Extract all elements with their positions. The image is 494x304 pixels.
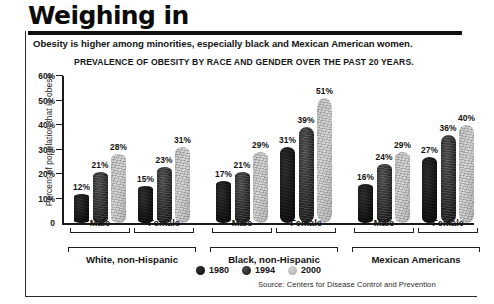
circle-light-icon (288, 266, 297, 275)
bar-1994-white-non-hispanic-female (157, 167, 172, 223)
bar-value-label: 36% (435, 124, 461, 132)
bar-2000-mexican-americans-male (395, 152, 410, 223)
chart-legend: 198019942000 (196, 265, 321, 275)
subtitle-text: Obesity is higher among minorities, espe… (33, 38, 413, 49)
race-bracket-0 (68, 247, 196, 252)
y-axis-tick-labels: 010%20%30%40%50%60% (28, 70, 55, 230)
gender-bracket-male-0 (70, 228, 130, 233)
y-tick-mark-40 (56, 124, 63, 125)
circle-dark-icon (196, 266, 205, 275)
bar-value-label: 31% (170, 136, 196, 144)
legend-label: 2000 (301, 265, 321, 275)
circle-mid-icon (242, 266, 251, 275)
bar-1980-black-non-hispanic-male (216, 181, 231, 223)
bar-value-label: 27% (417, 146, 443, 154)
gender-bracket-female-3 (276, 228, 336, 233)
bar-1994-mexican-americans-male (377, 164, 392, 223)
y-tick-label-60: 60% (38, 72, 55, 80)
bar-value-label: 40% (454, 114, 480, 122)
plot-area: 12%21%28%15%23%31%17%21%29%31%39%51%16%2… (62, 76, 474, 223)
bar-value-label: 28% (106, 143, 132, 151)
y-tick-label-20: 20% (38, 170, 55, 178)
bar-1994-black-non-hispanic-female (299, 127, 314, 223)
gender-bracket-female-5 (418, 228, 478, 233)
legend-item-1994[interactable]: 1994 (242, 265, 275, 275)
bar-value-label: 24% (371, 153, 397, 161)
y-tick-mark-10 (56, 198, 63, 199)
bar-2000-white-non-hispanic-male (111, 154, 126, 223)
bar-1994-mexican-americans-female (441, 135, 456, 223)
gender-label-female-3: Female (266, 218, 346, 228)
bar-2000-mexican-americans-female (459, 125, 474, 223)
race-bracket-1 (210, 247, 338, 252)
bar-2000-white-non-hispanic-female (175, 147, 190, 223)
gender-label-female-1: Female (124, 218, 204, 228)
gender-label-female-5: Female (408, 218, 488, 228)
legend-item-2000[interactable]: 2000 (288, 265, 321, 275)
bar-value-label: 21% (87, 161, 113, 169)
bar-value-label: 39% (293, 116, 319, 124)
legend-label: 1994 (255, 265, 275, 275)
y-tick-label-10: 10% (38, 195, 55, 203)
bar-2000-black-non-hispanic-male (253, 152, 268, 223)
y-tick-label-40: 40% (38, 121, 55, 129)
chart-title: PREVALENCE OF OBESITY BY RACE AND GENDER… (74, 57, 414, 67)
bar-1980-black-non-hispanic-female (280, 147, 295, 223)
y-tick-label-50: 50% (38, 97, 55, 105)
bar-value-label: 51% (312, 87, 338, 95)
bar-2000-black-non-hispanic-female (317, 98, 332, 223)
bar-value-label: 31% (275, 136, 301, 144)
bar-1994-white-non-hispanic-male (93, 172, 108, 223)
race-label-2: Mexican Americans (332, 254, 494, 265)
gender-bracket-female-1 (134, 228, 194, 233)
bar-value-label: 29% (248, 141, 274, 149)
bar-value-label: 17% (211, 170, 237, 178)
bar-1994-black-non-hispanic-male (235, 172, 250, 223)
bar-value-label: 16% (353, 173, 379, 181)
page-title: Weighing in (28, 2, 468, 29)
gender-bracket-male-2 (212, 228, 272, 233)
y-tick-mark-50 (56, 100, 63, 101)
y-tick-label-0: 0 (50, 219, 55, 227)
title-block: Weighing in (28, 2, 468, 34)
bar-value-label: 23% (151, 156, 177, 164)
legend-label: 1980 (209, 265, 229, 275)
y-tick-label-30: 30% (38, 146, 55, 154)
bar-value-label: 21% (229, 161, 255, 169)
bar-value-label: 29% (390, 141, 416, 149)
y-tick-mark-60 (56, 75, 63, 76)
y-tick-mark-20 (56, 173, 63, 174)
legend-item-1980[interactable]: 1980 (196, 265, 229, 275)
bar-value-label: 12% (69, 183, 95, 191)
y-tick-mark-30 (56, 149, 63, 150)
source-note: Source: Centers for Disease Control and … (258, 280, 436, 289)
bar-value-label: 15% (133, 175, 159, 183)
bar-1980-mexican-americans-female (422, 157, 437, 223)
race-bracket-2 (352, 247, 480, 252)
gender-bracket-male-4 (354, 228, 414, 233)
